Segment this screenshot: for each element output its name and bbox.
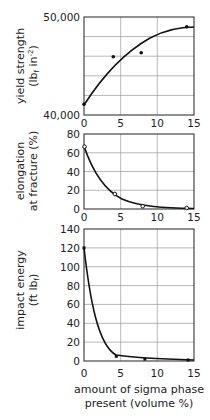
grid [84,17,194,115]
svg-text:5: 5 [117,367,124,379]
svg-text:15: 15 [187,117,200,129]
svg-text:20: 20 [67,184,80,196]
svg-text:0: 0 [73,203,80,215]
x-ticks: 0 5 10 15 [81,117,201,129]
svg-text:80: 80 [67,280,80,292]
svg-text:10: 10 [151,117,164,129]
svg-text:elongation: elongation [14,142,27,200]
svg-text:100: 100 [60,261,80,273]
svg-text:(lbf in-2): (lbf in-2) [27,45,41,87]
svg-text:40: 40 [67,166,80,178]
x-ticks: 0 5 10 15 [81,367,201,379]
y-ticks: 140 120 100 80 60 40 20 0 [60,223,80,367]
svg-text:0: 0 [81,117,88,129]
svg-text:0: 0 [81,211,88,223]
plot-frame [84,17,194,115]
fit-curve [84,248,194,360]
svg-text:10: 10 [151,211,164,223]
svg-text:0: 0 [81,367,88,379]
svg-text:present (volume %): present (volume %) [85,397,194,410]
chart-figure: 50,000 40,000 0 5 10 15 yield strength (… [0,0,210,420]
svg-text:(ft lbf): (ft lbf) [27,274,41,307]
y-axis-label: impact energy (ft lbf) [14,250,41,330]
fit-curve [84,27,194,105]
svg-text:10: 10 [151,367,164,379]
svg-text:15: 15 [187,211,200,223]
svg-text:15: 15 [187,367,200,379]
fit-curve [84,146,194,209]
svg-text:5: 5 [117,211,124,223]
plot-elongation: 80 60 40 20 0 0 5 10 15 elongation at fr… [14,128,201,223]
data-points [83,246,190,361]
plot-impact-energy: 140 120 100 80 60 40 20 0 0 5 10 15 impa… [14,223,204,410]
x-ticks: 0 5 10 15 [81,211,201,223]
y-ticks: 80 60 40 20 0 [67,128,80,215]
y-tick: 50,000 [43,11,80,23]
x-axis-label: amount of sigma phase present (volume %) [74,383,204,410]
data-points [82,25,188,106]
svg-text:80: 80 [67,128,80,140]
plot-yield-strength: 50,000 40,000 0 5 10 15 yield strength (… [14,11,201,129]
svg-text:40: 40 [67,317,80,329]
svg-text:60: 60 [67,147,80,159]
y-tick: 40,000 [43,109,80,121]
svg-text:5: 5 [117,117,124,129]
svg-text:20: 20 [67,336,80,348]
svg-text:impact energy: impact energy [14,250,27,330]
svg-text:0: 0 [73,355,80,367]
y-axis-label: elongation at fracture (%) [14,131,40,212]
svg-text:120: 120 [60,242,80,254]
y-axis-label: yield strength (lbf in-2) [14,28,41,104]
plot-frame [84,229,194,361]
grid [84,134,194,209]
grid [84,229,194,361]
svg-text:at fracture (%): at fracture (%) [27,131,40,212]
svg-text:60: 60 [67,298,80,310]
svg-text:amount of sigma phase: amount of sigma phase [74,383,204,396]
svg-text:yield strength: yield strength [14,28,27,104]
svg-text:140: 140 [60,223,80,235]
